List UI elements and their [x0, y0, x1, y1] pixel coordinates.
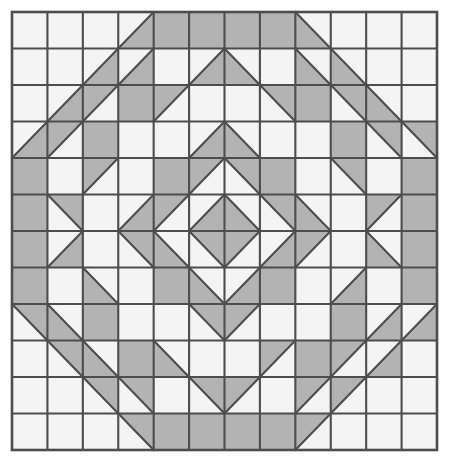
cell-full-shaded: [402, 195, 437, 232]
cell-base: [154, 122, 189, 159]
cell-full-shaded: [225, 12, 260, 49]
quilt-pattern-figure: [0, 0, 453, 466]
cell-base: [47, 377, 82, 414]
cell-base: [154, 49, 189, 86]
cell-base: [260, 377, 295, 414]
cell-base: [366, 12, 401, 49]
cell-base: [366, 158, 401, 195]
cell-full-shaded: [402, 268, 437, 305]
cell-base: [295, 268, 330, 305]
cell-full-shaded: [260, 414, 295, 451]
cell-full-shaded: [12, 231, 47, 268]
cell-full-shaded: [154, 12, 189, 49]
cell-base: [260, 304, 295, 341]
cell-base: [83, 414, 118, 451]
cell-full-shaded: [402, 231, 437, 268]
cell-full-shaded: [12, 158, 47, 195]
cell-full-shaded: [189, 12, 224, 49]
cell-base: [118, 304, 153, 341]
cell-base: [189, 85, 224, 122]
cell-base: [295, 158, 330, 195]
cell-base: [12, 12, 47, 49]
cell-full-shaded: [402, 158, 437, 195]
cell-base: [225, 85, 260, 122]
cell-base: [47, 158, 82, 195]
cell-base: [12, 414, 47, 451]
cell-base: [295, 304, 330, 341]
cell-base: [83, 195, 118, 232]
cell-base: [47, 12, 82, 49]
cell-base: [118, 122, 153, 159]
cell-base: [331, 195, 366, 232]
cell-full-shaded: [154, 268, 189, 305]
cell-base: [295, 122, 330, 159]
cell-base: [154, 304, 189, 341]
cell-full-shaded: [118, 85, 153, 122]
cell-full-shaded: [118, 341, 153, 378]
cell-full-shaded: [260, 268, 295, 305]
cell-full-shaded: [295, 85, 330, 122]
cell-base: [402, 341, 437, 378]
cell-full-shaded: [154, 414, 189, 451]
cell-full-shaded: [331, 304, 366, 341]
cell-base: [47, 268, 82, 305]
cell-base: [47, 49, 82, 86]
cell-base: [402, 12, 437, 49]
cell-full-shaded: [295, 341, 330, 378]
cell-full-shaded: [12, 195, 47, 232]
cell-full-shaded: [83, 304, 118, 341]
quilt-pattern-svg: [0, 0, 453, 466]
cell-base: [402, 414, 437, 451]
cell-base: [83, 12, 118, 49]
cell-base: [154, 377, 189, 414]
cell-base: [12, 49, 47, 86]
cell-base: [260, 122, 295, 159]
cell-base: [402, 377, 437, 414]
cell-full-shaded: [260, 158, 295, 195]
cell-base: [366, 377, 401, 414]
cell-base: [260, 49, 295, 86]
cell-base: [331, 414, 366, 451]
cell-base: [331, 231, 366, 268]
cell-base: [189, 341, 224, 378]
cell-full-shaded: [189, 414, 224, 451]
cell-base: [12, 85, 47, 122]
cell-base: [83, 231, 118, 268]
cell-base: [366, 49, 401, 86]
cell-base: [402, 85, 437, 122]
cell-full-shaded: [83, 122, 118, 159]
cell-full-shaded: [331, 122, 366, 159]
cell-base: [118, 158, 153, 195]
cell-base: [12, 377, 47, 414]
cell-full-shaded: [154, 158, 189, 195]
cell-base: [47, 414, 82, 451]
cell-full-shaded: [260, 12, 295, 49]
cell-base: [225, 341, 260, 378]
cell-full-shaded: [12, 268, 47, 305]
cell-full-shaded: [225, 414, 260, 451]
cell-base: [12, 341, 47, 378]
cell-base: [402, 49, 437, 86]
cell-base: [118, 268, 153, 305]
cell-base: [366, 414, 401, 451]
cell-base: [331, 12, 366, 49]
cell-base: [366, 268, 401, 305]
